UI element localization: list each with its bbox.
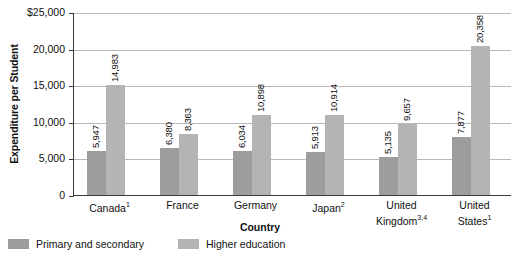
bar-higher-education: 9,657 [398, 124, 417, 195]
bar-group: 5,91310,914 [293, 12, 366, 195]
bar-group: 5,94714,983 [74, 12, 147, 195]
footnote-marker: 3,4 [417, 214, 427, 221]
footnote-marker: 2 [341, 201, 345, 208]
x-axis-title: Country [0, 221, 520, 233]
bar-value-label: 6,380 [164, 123, 174, 146]
bar-value-label: 5,947 [91, 126, 101, 149]
bar-primary-secondary: 7,877 [452, 137, 471, 195]
legend-item: Higher education [178, 238, 285, 250]
x-axis-category-label: Canada1 [73, 199, 146, 214]
bar-value-label: 6,034 [237, 125, 247, 148]
bar-primary-secondary: 6,034 [233, 151, 252, 195]
footnote-marker: 1 [487, 214, 491, 221]
legend-item: Primary and secondary [8, 238, 144, 250]
x-axis-category-label: France [146, 199, 219, 212]
x-axis-category-label: Germany [219, 199, 292, 212]
legend-label: Higher education [206, 238, 285, 250]
bar-chart: Expenditure per Student 5,94714,9836,380… [0, 0, 520, 256]
footnote-marker: 1 [126, 201, 130, 208]
bar-group: 6,03410,898 [220, 12, 293, 195]
bar-primary-secondary: 5,913 [306, 152, 325, 195]
bar-value-label: 5,135 [383, 132, 393, 155]
y-axis-title: Expenditure per Student [8, 14, 20, 194]
bar-higher-education: 20,358 [471, 46, 490, 195]
bar-higher-education: 8,363 [179, 134, 198, 195]
plot-area: 5,94714,9836,3808,3636,03410,8985,91310,… [73, 13, 511, 196]
bar-group: 5,1359,657 [366, 12, 439, 195]
bar-higher-education: 10,898 [252, 115, 271, 195]
legend-label: Primary and secondary [36, 238, 144, 250]
legend-swatch [178, 239, 199, 249]
bar-value-label: 20,358 [475, 15, 485, 43]
y-axis-tick-label: $25,000 [27, 6, 65, 18]
bar-higher-education: 14,983 [106, 85, 125, 195]
bar-primary-secondary: 5,135 [379, 157, 398, 195]
bar-value-label: 10,914 [329, 84, 339, 112]
y-axis-tick-label: 15,000 [33, 79, 65, 91]
y-axis-tick-label: 0 [59, 189, 65, 201]
legend-swatch [8, 239, 29, 249]
bar-value-label: 14,983 [110, 54, 120, 82]
chart-legend: Primary and secondaryHigher education [8, 238, 319, 250]
bar-primary-secondary: 6,380 [160, 148, 179, 195]
bar-group: 7,87720,358 [439, 12, 512, 195]
y-axis-tick-label: 10,000 [33, 116, 65, 128]
y-axis-tick-label: 20,000 [33, 43, 65, 55]
bar-value-label: 10,898 [256, 84, 266, 112]
bar-value-label: 8,363 [183, 108, 193, 131]
bar-value-label: 5,913 [310, 126, 320, 149]
y-axis-tick [69, 196, 74, 197]
y-axis-tick-label: 5,000 [39, 152, 65, 164]
bar-group: 6,3808,363 [147, 12, 220, 195]
x-axis-category-label: Japan2 [292, 199, 365, 214]
bar-value-label: 9,657 [402, 99, 412, 122]
bar-value-label: 7,877 [456, 112, 466, 135]
bar-higher-education: 10,914 [325, 115, 344, 195]
bar-primary-secondary: 5,947 [87, 151, 106, 195]
